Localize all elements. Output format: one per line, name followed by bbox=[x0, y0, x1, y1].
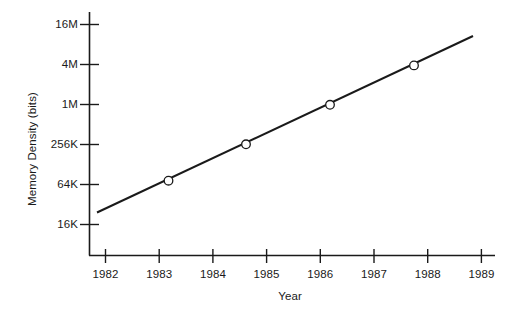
xtick-label-1986: 1986 bbox=[307, 268, 333, 280]
data-point-marker bbox=[410, 61, 419, 70]
xtick-label-1984: 1984 bbox=[200, 268, 226, 280]
xtick-label-1988: 1988 bbox=[415, 268, 441, 280]
data-point-marker bbox=[242, 140, 251, 149]
xtick-label-1987: 1987 bbox=[361, 268, 387, 280]
xtick-label-1985: 1985 bbox=[254, 268, 280, 280]
xtick-label-1989: 1989 bbox=[468, 268, 494, 280]
data-point-marker bbox=[164, 176, 173, 185]
ytick-label-4M: 4M bbox=[18, 58, 78, 70]
ytick-label-16M: 16M bbox=[18, 18, 78, 30]
y-axis-title: Memory Density (bits) bbox=[26, 92, 38, 206]
data-point-marker bbox=[326, 101, 335, 110]
xtick-label-1983: 1983 bbox=[146, 268, 172, 280]
memory-density-chart: 16M 4M 1M 256K 64K 16K 1982 1983 1984 19… bbox=[0, 0, 519, 318]
ytick-label-16K: 16K bbox=[18, 218, 78, 230]
x-axis-title: Year bbox=[278, 290, 302, 302]
xtick-label-1982: 1982 bbox=[93, 268, 119, 280]
